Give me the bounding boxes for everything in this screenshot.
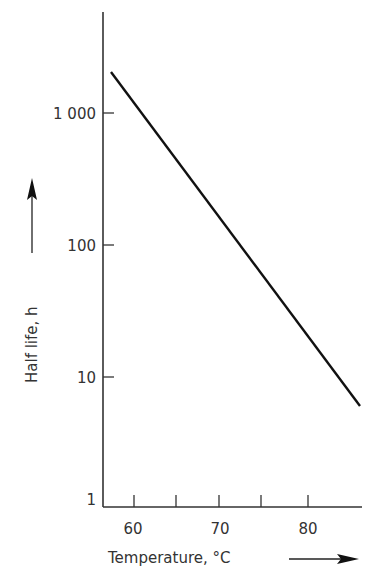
x-axis-arrow-icon	[289, 554, 359, 564]
y-ticks	[103, 113, 114, 377]
x-axis-title: Temperature, °C	[107, 549, 231, 567]
y-tick-label-10: 10	[77, 369, 96, 387]
y-tick-label-1: 1	[86, 491, 96, 509]
x-tick-label-80: 80	[298, 520, 317, 538]
y-axis-title: Half life, h	[23, 306, 41, 383]
x-tick-label-70: 70	[210, 520, 229, 538]
y-tick-label-1000: 1 000	[53, 105, 96, 123]
half-life-curve	[111, 72, 360, 406]
y-axis-arrow-icon	[27, 178, 37, 253]
x-ticks	[134, 495, 308, 507]
x-tick-label-60: 60	[123, 520, 142, 538]
half-life-chart: 1 000 100 10 1 60 70 80 Temperature, °C …	[0, 0, 383, 581]
y-tick-label-100: 100	[67, 237, 96, 255]
